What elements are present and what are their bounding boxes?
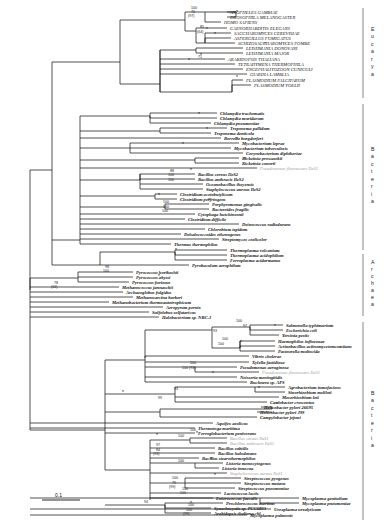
domain-label-letter: a xyxy=(371,397,374,403)
bootstrap-value: 100 xyxy=(163,200,169,204)
node-support-star: * xyxy=(236,136,238,142)
node-support-star: * xyxy=(258,385,260,391)
domain-label-letter: a xyxy=(371,71,374,77)
domain-label-letter: a xyxy=(371,153,374,159)
domain-label-letter: i xyxy=(371,191,372,197)
node-support-star: * xyxy=(175,247,177,253)
node-support-star: * xyxy=(156,432,158,438)
taxon-label: Deinococcus radiodurans xyxy=(241,222,291,227)
bootstrap-value: 100 xyxy=(178,459,184,463)
node-support-star: * xyxy=(144,355,146,361)
node-support-star: * xyxy=(190,500,192,506)
bootstrap-value: 100 xyxy=(190,361,196,365)
bootstrap-value: (99) xyxy=(183,512,189,516)
taxon-label: Pyrobaculum aerophilum xyxy=(192,263,241,268)
node-support-star: * xyxy=(158,192,160,198)
domain-label-group: EucaryaBacteriaArchaeaBacteria xyxy=(363,8,375,520)
taxon-label-group: ANOPHELES GAMBIAEDROSOPHILA MELANOGASTER… xyxy=(111,10,352,518)
node-support-star: * xyxy=(158,273,160,279)
domain-label-letter: E xyxy=(371,26,375,32)
bootstrap-value: 97 xyxy=(243,324,247,328)
taxon-label: Thermus thermophilus xyxy=(174,242,218,247)
domain-label-letter: a xyxy=(371,198,374,204)
node-support-star: * xyxy=(196,430,198,436)
node-support-star: * xyxy=(210,456,212,462)
bootstrap-value: 100 xyxy=(172,476,178,480)
domain-label-letter: a xyxy=(371,48,374,54)
taxon-label: Pseudomonas fluorescens IleS2 xyxy=(259,166,319,171)
bootstrap-value-group: 10070(97)85(64)7188100100100100100981007… xyxy=(51,6,247,516)
bootstrap-value: 85 xyxy=(200,25,204,29)
bootstrap-value: 93 xyxy=(174,387,178,391)
domain-label-letter: c xyxy=(371,41,374,47)
node-support-star: * xyxy=(198,111,200,117)
domain-label-letter: A xyxy=(371,259,375,265)
bootstrap-value: 100 xyxy=(162,209,168,213)
domain-label-letter: e xyxy=(371,294,374,300)
bootstrap-value: 100 xyxy=(218,342,224,346)
domain-label-letter: B xyxy=(371,390,375,396)
domain-label-letter: y xyxy=(371,63,374,69)
domain-label-letter: i xyxy=(371,435,372,441)
node-support-star: * xyxy=(244,156,246,162)
domain-label-letter: a xyxy=(371,301,374,307)
domain-label-letter: u xyxy=(371,33,374,39)
node-support-star: * xyxy=(274,323,276,329)
taxon-label: Halobacterium sp. NRC-1 xyxy=(161,315,211,320)
bootstrap-value: (93) xyxy=(153,452,159,456)
node-support-star: * xyxy=(182,141,184,147)
bootstrap-value: 93 xyxy=(213,329,217,333)
bootstrap-value: 100 xyxy=(168,173,174,177)
taxon-label: Clostridium difficile xyxy=(188,217,226,222)
node-support-star: * xyxy=(206,26,208,32)
bootstrap-value: (64) xyxy=(197,30,203,34)
bootstrap-value: 100 xyxy=(178,434,184,438)
taxon-label: LEISHMANIA MAJOR xyxy=(245,51,289,56)
bootstrap-value: 94 xyxy=(144,500,148,504)
node-support-star: * xyxy=(188,57,190,63)
taxon-label: Campylobacter jejuni xyxy=(260,415,301,420)
node-support-star: * xyxy=(240,339,242,345)
domain-label-letter: a xyxy=(371,442,374,448)
taxon-label: GIARDIA LAMBLIA xyxy=(250,72,289,77)
bootstrap-value: (97) xyxy=(188,14,194,18)
taxon-label: Mycoplasma pneumoniae xyxy=(301,501,351,506)
bootstrap-value: (99) xyxy=(169,485,175,489)
domain-label-letter: r xyxy=(371,427,373,433)
taxon-label: Mycoplasma pulmonis xyxy=(249,513,293,518)
scale-bar: 0.1 xyxy=(42,492,80,500)
taxon-label: Streptomyces coelicolor xyxy=(222,237,267,242)
bootstrap-value: (63) xyxy=(51,285,57,289)
node-support-star: * xyxy=(208,197,210,203)
domain-label-letter: t xyxy=(371,168,373,174)
domain-label-letter: a xyxy=(371,287,374,293)
domain-label-letter: h xyxy=(371,280,374,286)
node-support-star: * xyxy=(214,31,216,37)
taxon-label: Pasteurella multocida xyxy=(278,349,320,354)
domain-label-letter: t xyxy=(371,412,373,418)
bootstrap-value: 100 xyxy=(236,319,242,323)
node-support-star: * xyxy=(236,9,238,15)
taxon-label: HOMO SAPIENS xyxy=(223,20,258,25)
domain-label-letter: r xyxy=(371,183,373,189)
domain-label-letter: B xyxy=(371,146,375,152)
domain-label-letter: r xyxy=(371,56,373,62)
taxon-label: Vibrio cholerae xyxy=(252,354,281,359)
scale-bar-label: 0.1 xyxy=(55,492,62,498)
bootstrap-value: 100 xyxy=(222,337,228,341)
node-support-star: * xyxy=(276,401,278,407)
taxon-label: PLASMODIUM YOELII xyxy=(253,83,300,88)
bootstrap-value: 100 (93) xyxy=(182,366,195,370)
node-support-star: * xyxy=(190,167,192,173)
bootstrap-value: 100 xyxy=(180,491,186,495)
node-support-star: * xyxy=(200,52,202,58)
domain-label-letter: c xyxy=(371,273,374,279)
taxon-label: Buchnera sp. APS xyxy=(249,380,285,385)
domain-label-letter: e xyxy=(371,420,374,426)
taxon-label: Yersinia pestis xyxy=(282,333,309,338)
node-support-star: * xyxy=(122,389,124,395)
domain-label-letter: c xyxy=(371,161,374,167)
bootstrap-value: 97 xyxy=(156,443,160,447)
phylogenetic-tree-figure: ANOPHELES GAMBIAEDROSOPHILA MELANOGASTER… xyxy=(0,0,391,529)
bootstrap-value: 100 xyxy=(168,178,174,182)
